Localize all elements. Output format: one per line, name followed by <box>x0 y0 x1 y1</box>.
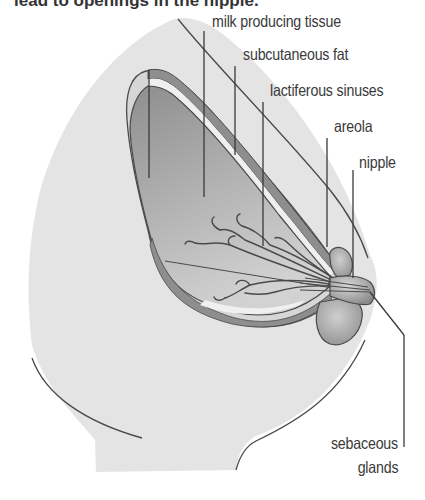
leader-sebaceous-diag <box>370 292 404 335</box>
label-lactiferous-sinuses: lactiferous sinuses <box>270 81 383 100</box>
label-sebaceous: sebaceous <box>331 434 398 453</box>
label-subcutaneous-fat: subcutaneous fat <box>243 45 348 64</box>
label-areola: areola <box>334 117 372 136</box>
breast-anatomy-diagram <box>0 0 425 500</box>
label-nipple: nipple <box>359 153 396 172</box>
label-milk-producing-tissue: milk producing tissue <box>212 12 341 31</box>
label-glands: glands <box>357 458 398 477</box>
